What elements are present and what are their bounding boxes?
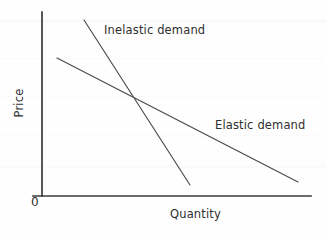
origin-label: 0	[31, 196, 39, 208]
inelastic-demand-curve	[84, 20, 190, 185]
elastic-demand-label: Elastic demand	[215, 120, 306, 132]
y-axis-label-price: Price	[14, 89, 26, 118]
inelastic-demand-label: Inelastic demand	[104, 25, 205, 37]
x-axis-label-quantity: Quantity	[170, 209, 221, 221]
elasticity-demand-figure: Inelastic demand Elastic demand Price Qu…	[0, 0, 326, 235]
